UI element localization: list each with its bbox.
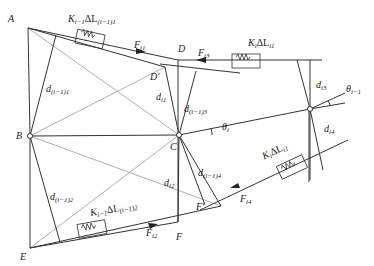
label-theta-i: θi: [222, 122, 229, 134]
label-d-i1: di1: [156, 92, 166, 104]
label-D-prime: D′: [150, 72, 159, 82]
joint-B: [28, 134, 33, 139]
arrow-F-i4: [230, 183, 240, 188]
ray-theta-prev2: [310, 103, 345, 109]
d-prev2: [30, 136, 60, 242]
theta-i-arc: [211, 128, 212, 135]
label-B: B: [16, 131, 22, 141]
mechanism-diagram: [0, 0, 374, 266]
label-d-prev1: d(i−1)1: [46, 84, 69, 96]
label-F-i1: Fi1: [134, 40, 146, 52]
label-d-prev3: d(i−1)3: [184, 104, 207, 116]
joint-C: [177, 133, 182, 138]
label-D: D: [178, 44, 185, 54]
spring-top-left-coil: [81, 29, 96, 38]
label-d-i4: di4: [324, 124, 334, 136]
edge-A-B: [28, 28, 30, 136]
label-A: A: [8, 14, 14, 24]
spring-top-right-coil: [236, 54, 250, 60]
d-i4: [310, 109, 323, 170]
label-F-prime: F′: [196, 202, 204, 212]
theta-prev-arc: [328, 101, 330, 105]
label-d-prev4: d(i−1)4: [198, 168, 221, 180]
label-C: C: [170, 142, 177, 152]
d-i1: [165, 67, 179, 135]
label-E: E: [20, 252, 26, 262]
d-i3: [297, 60, 310, 109]
label-F-i3: Fi3: [198, 48, 210, 60]
label-F-i4: Fi4: [240, 194, 252, 206]
edge-B-C: [30, 135, 179, 136]
joint-right: [308, 107, 313, 112]
label-theta-prev: θi−1: [346, 84, 361, 96]
label-F: F: [176, 232, 182, 242]
ray-theta-prev1: [310, 93, 345, 109]
label-d-i3: di3: [316, 80, 326, 92]
line-D'-ext: [160, 64, 240, 73]
label-F-i2: Fi2: [146, 228, 158, 240]
label-d-prev2: d(i−1)2: [50, 192, 73, 204]
label-spring-top-right: KiΔLi1: [248, 38, 275, 50]
label-d-i2: di2: [164, 178, 174, 190]
label-spring-top-left: Ki−1ΔL(i−1)1: [68, 14, 116, 26]
